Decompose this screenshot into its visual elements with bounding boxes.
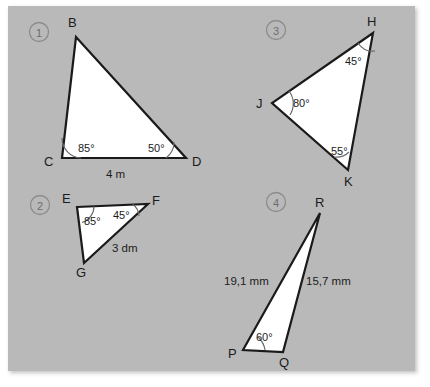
problem-3-badge-label: 3 <box>273 25 279 37</box>
vertex-label-j: J <box>256 96 263 111</box>
side-label-qr: 15,7 mm <box>306 275 351 287</box>
problem-3-group: 3 H J K 45° 80° 55° <box>256 14 376 189</box>
side-label-fg: 3 dm <box>112 242 138 254</box>
problem-2-badge-label: 2 <box>37 200 43 212</box>
vertex-label-k: K <box>344 174 353 189</box>
vertex-label-q: Q <box>279 355 289 370</box>
side-label-pr: 19,1 mm <box>224 275 269 287</box>
vertex-label-d: D <box>192 154 201 169</box>
geometry-figure: 1 B C D 85° 50° 4 m 2 E F G 85° 45° 3 dm… <box>0 0 430 387</box>
angle-label-j: 80° <box>293 97 310 109</box>
angle-label-h: 45° <box>345 55 362 67</box>
angle-label-c: 85° <box>78 142 95 154</box>
vertex-label-p: P <box>228 346 237 361</box>
triangle-hjk[interactable] <box>272 33 373 170</box>
angle-label-e: 85° <box>84 215 101 227</box>
vertex-label-f: F <box>152 193 160 208</box>
problem-4-badge-label: 4 <box>273 197 279 209</box>
problem-1-group: 1 B C D 85° 50° 4 m <box>30 15 202 180</box>
vertex-label-b: B <box>68 15 77 30</box>
angle-label-p: 60° <box>256 331 273 343</box>
angle-label-k: 55° <box>331 145 348 157</box>
side-label-cd: 4 m <box>106 168 125 180</box>
triangle-bcd[interactable] <box>62 37 186 158</box>
angle-label-d: 50° <box>148 142 165 154</box>
vertex-label-e: E <box>62 191 71 206</box>
problem-2-group: 2 E F G 85° 45° 3 dm <box>31 191 161 280</box>
vertex-label-r: R <box>315 195 324 210</box>
vertex-label-g: G <box>76 265 86 280</box>
vertex-label-h: H <box>367 14 376 29</box>
problem-1-badge-label: 1 <box>36 27 42 39</box>
angle-label-f: 45° <box>113 209 130 221</box>
vertex-label-c: C <box>44 154 53 169</box>
problem-4-group: 4 R P Q 60° 19,1 mm 15,7 mm <box>224 193 351 371</box>
